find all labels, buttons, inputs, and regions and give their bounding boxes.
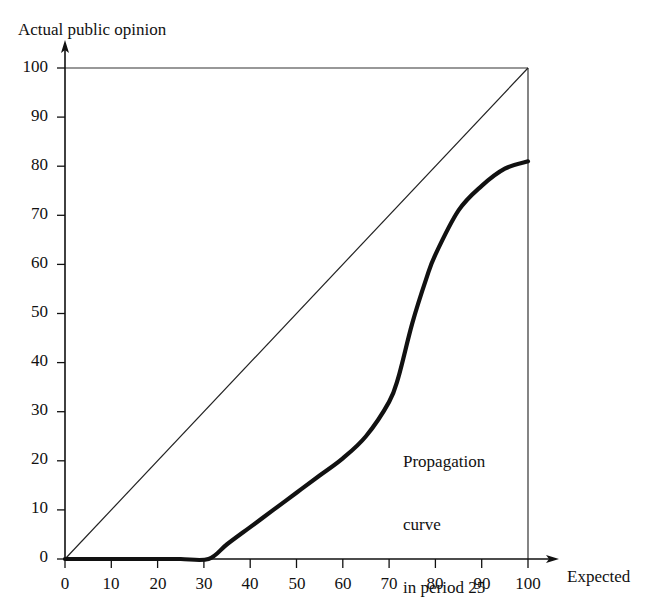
propagation-curve-label: Propagation curve in period 25 — [403, 409, 485, 612]
annotation-line-3: in period 25 — [403, 577, 485, 598]
y-tick-label-0: 0 — [8, 547, 48, 567]
y-tick-label-30: 30 — [8, 400, 48, 420]
x-tick-label-60: 60 — [323, 574, 363, 594]
annotation-line-1: Propagation — [403, 451, 485, 472]
y-tick-label-10: 10 — [8, 498, 48, 518]
x-axis-title-line-1: Expected — [567, 567, 630, 587]
x-tick-label-10: 10 — [91, 574, 131, 594]
x-tick-label-30: 30 — [184, 574, 224, 594]
y-tick-label-50: 50 — [8, 302, 48, 322]
x-tick-label-20: 20 — [138, 574, 178, 594]
y-tick-label-40: 40 — [8, 351, 48, 371]
y-axis-ticks — [57, 68, 65, 559]
x-axis-title: Expected public opinion — [567, 527, 630, 612]
y-tick-label-100: 100 — [8, 57, 48, 77]
x-tick-label-40: 40 — [230, 574, 270, 594]
y-tick-label-90: 90 — [8, 106, 48, 126]
x-tick-label-0: 0 — [45, 574, 85, 594]
y-tick-label-20: 20 — [8, 449, 48, 469]
y-tick-label-60: 60 — [8, 253, 48, 273]
x-tick-label-50: 50 — [277, 574, 317, 594]
y-tick-label-70: 70 — [8, 204, 48, 224]
y-axis-title: Actual public opinion — [18, 20, 166, 40]
x-tick-label-100: 100 — [508, 574, 548, 594]
y-tick-label-80: 80 — [8, 155, 48, 175]
chart-figure: Actual public opinion Expected public op… — [0, 0, 663, 612]
annotation-line-2: curve — [403, 514, 485, 535]
propagation-curve-chart — [0, 0, 663, 612]
